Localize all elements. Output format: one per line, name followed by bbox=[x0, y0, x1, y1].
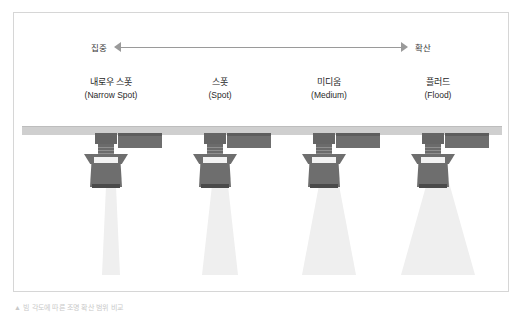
neck-rib bbox=[425, 153, 441, 154]
lighting-beam-angle-diagram: 집중 확산 내로우 스폿 (Narrow Spot) 스폿 (Spot) 미디움… bbox=[13, 12, 509, 292]
lamp-aperture bbox=[310, 184, 338, 188]
spread-axis-right-label: 확산 bbox=[415, 41, 431, 53]
neck-rib bbox=[316, 147, 332, 148]
track-mount bbox=[204, 133, 226, 144]
fixture-captions: 내로우 스폿 (Narrow Spot) 스폿 (Spot) 미디움 (Medi… bbox=[14, 76, 508, 108]
reflector-band bbox=[203, 157, 227, 163]
caption-flood: 플러드 (Flood) bbox=[383, 76, 493, 102]
neck-rib bbox=[316, 153, 332, 154]
caption-medium: 미디움 (Medium) bbox=[274, 76, 384, 102]
reflector-band bbox=[421, 157, 445, 163]
arrow-right-head-icon bbox=[401, 42, 408, 52]
spread-axis-arrow bbox=[114, 42, 408, 52]
track-mount bbox=[313, 133, 335, 144]
beam-flood bbox=[401, 175, 475, 275]
neck-rib bbox=[425, 150, 441, 151]
neck-rib bbox=[98, 147, 114, 148]
caption-spot: 스폿 (Spot) bbox=[165, 76, 275, 102]
neck-rib bbox=[425, 147, 441, 148]
arrow-shaft bbox=[120, 47, 402, 48]
caption-en: (Spot) bbox=[165, 89, 275, 102]
neck-rib bbox=[98, 150, 114, 151]
caption-en: (Flood) bbox=[383, 89, 493, 102]
caption-en: (Narrow Spot) bbox=[56, 89, 166, 102]
neck-rib bbox=[207, 153, 223, 154]
caption-ko: 플러드 bbox=[383, 76, 493, 89]
lamp-aperture bbox=[92, 184, 120, 188]
track-housing-cap bbox=[336, 133, 380, 136]
caption-narrow-spot: 내로우 스폿 (Narrow Spot) bbox=[56, 76, 166, 102]
beam-narrow-spot bbox=[102, 175, 120, 275]
neck-rib bbox=[98, 153, 114, 154]
caption-ko: 내로우 스폿 bbox=[56, 76, 166, 89]
track-housing-cap bbox=[118, 133, 162, 136]
caption-en: (Medium) bbox=[274, 89, 384, 102]
beam-medium bbox=[302, 175, 356, 275]
neck-rib bbox=[207, 150, 223, 151]
lamp-aperture bbox=[419, 184, 447, 188]
reflector-band bbox=[312, 157, 336, 163]
neck-rib bbox=[316, 150, 332, 151]
caption-ko: 스폿 bbox=[165, 76, 275, 89]
figure-footnote: ▲ 빔 각도에 따른 조명 확산 범위 비교 bbox=[14, 302, 314, 312]
reflector-band bbox=[94, 157, 118, 163]
neck-rib bbox=[207, 147, 223, 148]
spread-axis-left-label: 집중 bbox=[91, 41, 107, 53]
track-housing-cap bbox=[227, 133, 271, 136]
beam-spot bbox=[202, 175, 238, 275]
lamp-aperture bbox=[201, 184, 229, 188]
caption-ko: 미디움 bbox=[274, 76, 384, 89]
track-housing-cap bbox=[445, 133, 489, 136]
spread-axis: 집중 확산 bbox=[14, 39, 508, 55]
track-mount bbox=[95, 133, 117, 144]
track-mount bbox=[422, 133, 444, 144]
